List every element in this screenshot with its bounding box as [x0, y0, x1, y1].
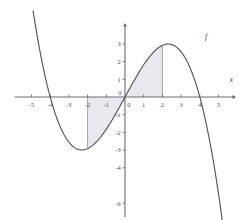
- y-tick-label: 2: [118, 58, 121, 65]
- y-tick-label: -6: [115, 200, 120, 207]
- plot-canvas: -5-4-3-2-1012345 -6-4-3-2-11230 f x: [0, 0, 248, 220]
- x-axis-label: x: [229, 76, 234, 84]
- function-curve-f: [33, 11, 222, 220]
- axes-group: [15, 23, 236, 217]
- x-tick-label: 5: [217, 101, 220, 108]
- curve-label: f: [205, 32, 208, 41]
- y-axis-arrow-icon: [123, 23, 127, 27]
- x-tick-label: 0: [127, 101, 130, 108]
- x-tick-label: 3: [179, 101, 182, 108]
- x-tick-label: -5: [29, 101, 34, 108]
- y-tick-label: 1: [118, 76, 121, 83]
- y-tick-label: -4: [115, 164, 121, 171]
- x-axis-arrow-icon: [232, 95, 236, 99]
- y-axis-tick-labels: -6-4-3-2-11230: [115, 40, 121, 206]
- origin-label: 0: [118, 89, 121, 96]
- y-tick-label: -3: [115, 146, 120, 153]
- y-tick-label: 3: [118, 40, 121, 47]
- right-shaded-region: [125, 45, 162, 97]
- x-tick-label: -1: [104, 101, 109, 108]
- graph-figure: -5-4-3-2-1012345 -6-4-3-2-11230 f x: [0, 0, 248, 220]
- x-tick-label: 2: [161, 101, 164, 108]
- x-tick-label: 1: [142, 101, 145, 108]
- x-tick-label: -3: [66, 101, 71, 108]
- y-tick-label: -2: [115, 129, 120, 136]
- x-tick-label: -2: [85, 101, 90, 108]
